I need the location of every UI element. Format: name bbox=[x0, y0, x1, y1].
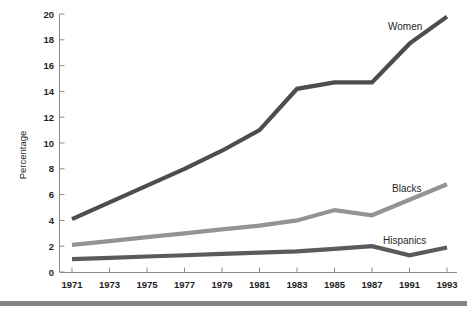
y-tick-label: 10 bbox=[43, 138, 54, 149]
chart-figure: Percentage 20 18 16 14 12 10 8 6 4 2 0 bbox=[0, 0, 467, 314]
y-tick-marks bbox=[60, 14, 65, 272]
y-tick-label: 0 bbox=[49, 267, 54, 278]
series-label-women: Women bbox=[388, 21, 422, 32]
x-tick-marks bbox=[72, 268, 447, 273]
y-tick-label: 8 bbox=[49, 163, 54, 174]
x-tick-label: 1973 bbox=[99, 279, 120, 290]
y-tick-label: 14 bbox=[43, 86, 54, 97]
x-tick-label: 1981 bbox=[249, 279, 271, 290]
y-tick-labels: 20 18 16 14 12 10 8 6 4 2 0 bbox=[43, 9, 54, 278]
series-label-blacks: Blacks bbox=[392, 183, 421, 194]
series-line-women bbox=[72, 17, 447, 220]
y-axis-title: Percentage bbox=[17, 131, 28, 180]
series-label-hispanics: Hispanics bbox=[383, 235, 426, 246]
series-labels: WomenBlacksHispanics bbox=[383, 21, 426, 246]
line-chart: Percentage 20 18 16 14 12 10 8 6 4 2 0 bbox=[0, 0, 467, 314]
x-tick-label: 1987 bbox=[361, 279, 382, 290]
y-tick-label: 16 bbox=[43, 60, 54, 71]
series-lines bbox=[72, 17, 447, 260]
y-tick-label: 12 bbox=[43, 112, 54, 123]
x-tick-labels: 1971197319751977197919811983198519871991… bbox=[61, 279, 457, 290]
x-tick-label: 1983 bbox=[286, 279, 307, 290]
x-tick-label: 1993 bbox=[436, 279, 457, 290]
y-tick-label: 20 bbox=[43, 9, 54, 20]
y-tick-label: 6 bbox=[49, 189, 54, 200]
footer-rule bbox=[0, 301, 467, 306]
x-tick-label: 1979 bbox=[211, 279, 232, 290]
x-tick-label: 1977 bbox=[174, 279, 195, 290]
x-tick-label: 1971 bbox=[61, 279, 83, 290]
y-tick-label: 18 bbox=[43, 34, 54, 45]
x-tick-label: 1975 bbox=[136, 279, 158, 290]
series-line-hispanics bbox=[72, 246, 447, 259]
x-tick-label: 1985 bbox=[324, 279, 346, 290]
x-tick-label: 1991 bbox=[399, 279, 421, 290]
y-tick-label: 4 bbox=[49, 215, 55, 226]
y-tick-label: 2 bbox=[49, 241, 54, 252]
